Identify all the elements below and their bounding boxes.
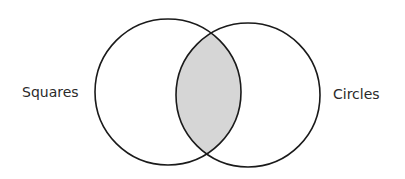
set-label-squares: Squares — [22, 84, 79, 100]
venn-diagram: Squares Circles — [0, 0, 405, 179]
set-label-circles: Circles — [333, 86, 380, 102]
